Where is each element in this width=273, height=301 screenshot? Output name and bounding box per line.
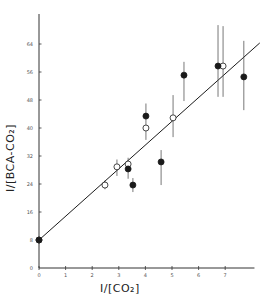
y-tick-label: 24	[27, 181, 33, 187]
x-tick-label: 1	[64, 272, 67, 278]
filled-data-point	[158, 159, 164, 165]
filled-data-point	[215, 63, 221, 69]
x-tick-label: 5	[170, 272, 173, 278]
open-data-point	[102, 182, 108, 188]
y-axis-title: I/[BCA-CO₂]	[4, 124, 17, 192]
x-tick-label: 0	[37, 272, 40, 278]
filled-data-point	[125, 166, 131, 172]
x-tick-label: 6	[197, 272, 200, 278]
y-tick-label: 40	[27, 125, 33, 131]
filled-data-point	[181, 72, 187, 78]
x-axis-title: I/[CO₂]	[100, 282, 140, 295]
x-tick-label: 7	[224, 272, 227, 278]
open-data-point	[143, 125, 149, 131]
data-markers	[36, 63, 247, 243]
filled-data-point	[241, 74, 247, 80]
plot-area: 01234567 0816243240485664	[27, 14, 260, 278]
y-tick-label: 48	[27, 97, 33, 103]
regression-line	[39, 43, 260, 240]
y-tick-label: 56	[27, 69, 33, 75]
y-tick-label: 8	[30, 237, 33, 243]
y-tick-label: 16	[27, 209, 33, 215]
filled-data-point	[143, 113, 149, 119]
filled-data-point	[36, 237, 42, 243]
y-tick-label: 0	[30, 265, 33, 271]
x-tick-label: 3	[117, 272, 120, 278]
filled-data-point	[130, 182, 136, 188]
y-tick-label: 64	[27, 41, 33, 47]
open-data-point	[170, 115, 176, 121]
x-tick-label: 4	[144, 272, 147, 278]
scatter-chart: 01234567 0816243240485664 I/[CO₂] I/[BCA…	[0, 0, 273, 301]
open-data-point	[114, 164, 120, 170]
y-tick-label: 32	[27, 153, 33, 159]
x-tick-label: 2	[91, 272, 94, 278]
